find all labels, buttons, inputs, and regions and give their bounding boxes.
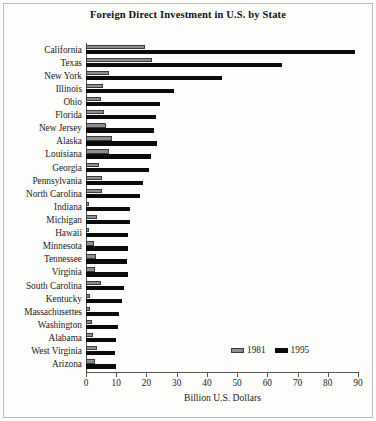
category-label: Louisiana (45, 149, 82, 159)
bar-1995 (86, 168, 149, 172)
bar-1995 (86, 338, 116, 342)
bar-1995 (86, 259, 127, 263)
x-axis-tick-label: 0 (84, 378, 89, 388)
legend-label: 1995 (291, 345, 310, 355)
bar-1995 (86, 233, 128, 237)
x-axis-tick-label: 20 (142, 378, 151, 388)
legend-item: 1981 (231, 345, 266, 355)
category-label: South Carolina (26, 281, 82, 291)
chart-row: Massachusettes (86, 305, 358, 318)
bar-1995 (86, 312, 119, 316)
gray-swatch (231, 348, 244, 353)
x-axis-tick-label: 60 (263, 378, 272, 388)
chart-row: South Carolina (86, 279, 358, 292)
x-axis-tick (116, 372, 117, 377)
bar-1995 (86, 128, 154, 132)
bar-1981 (86, 281, 101, 285)
category-label: Alabama (48, 333, 82, 343)
bar-1981 (86, 215, 97, 219)
bar-1995 (86, 50, 355, 54)
chart-row: New Jersey (86, 122, 358, 135)
chart-row: Georgia (86, 161, 358, 174)
bar-1981 (86, 176, 102, 180)
bar-1995 (86, 299, 122, 303)
bar-1981 (86, 123, 106, 127)
bar-1981 (86, 320, 92, 324)
bar-1995 (86, 207, 130, 211)
chart-row: North Carolina (86, 187, 358, 200)
bar-1981 (86, 254, 96, 258)
x-axis-tick-label: 40 (202, 378, 211, 388)
legend-label: 1981 (247, 345, 266, 355)
bar-1981 (86, 149, 109, 153)
x-axis-tick (177, 372, 178, 377)
chart-row: Alaska (86, 135, 358, 148)
x-axis-tick-label: 80 (323, 378, 332, 388)
bar-1981 (86, 228, 89, 232)
bar-1981 (86, 346, 97, 350)
category-label: New Jersey (39, 123, 82, 133)
plot-area: CaliforniaTexasNew YorkIllinoisOhioFlori… (86, 43, 358, 371)
x-axis-tick-label: 10 (112, 378, 121, 388)
chart-row: West Virginia (86, 345, 358, 358)
bar-1981 (86, 359, 95, 363)
category-label: Tennessee (44, 254, 82, 264)
bar-1995 (86, 76, 222, 80)
category-label: Washington (38, 320, 82, 330)
category-label: Massachusettes (24, 307, 82, 317)
chart-row: Ohio (86, 95, 358, 108)
bar-1995 (86, 272, 128, 276)
bar-1981 (86, 110, 104, 114)
chart-row: Texas (86, 56, 358, 69)
bar-1981 (86, 45, 145, 49)
chart-row: Michigan (86, 213, 358, 226)
bar-1995 (86, 141, 157, 145)
category-label: Texas (60, 58, 82, 68)
chart-row: Kentucky (86, 292, 358, 305)
bar-1981 (86, 163, 99, 167)
bar-1981 (86, 58, 152, 62)
bar-1995 (86, 154, 151, 158)
category-label: New York (44, 71, 82, 81)
x-axis-tick-label: 30 (172, 378, 181, 388)
x-axis-tick (207, 372, 208, 377)
x-axis-tick-label: 70 (293, 378, 302, 388)
category-label: Arizona (52, 359, 82, 369)
chart-row: Alabama (86, 331, 358, 344)
bar-1995 (86, 181, 143, 185)
category-label: Michigan (46, 215, 82, 225)
category-label: Virginia (52, 267, 82, 277)
bar-1981 (86, 189, 102, 193)
bar-1995 (86, 325, 118, 329)
chart-row: New York (86, 69, 358, 82)
chart-title: Foreign Direct Investment in U.S. by Sta… (0, 9, 376, 20)
x-axis-tick (146, 372, 147, 377)
bar-1981 (86, 267, 95, 271)
x-axis-tick (328, 372, 329, 377)
bar-1981 (86, 84, 103, 88)
bar-1995 (86, 89, 174, 93)
x-axis-label: Billion U.S. Dollars (86, 392, 359, 403)
chart-row: Illinois (86, 82, 358, 95)
x-axis-line (86, 372, 359, 373)
x-axis-tick-label: 50 (232, 378, 241, 388)
category-label: Ohio (63, 97, 82, 107)
chart-row: Pennsylvania (86, 174, 358, 187)
bar-1981 (86, 202, 89, 206)
bar-1995 (86, 246, 128, 250)
category-label: Florida (55, 110, 82, 120)
black-swatch (275, 348, 288, 353)
x-axis-tick (267, 372, 268, 377)
chart-row: Florida (86, 109, 358, 122)
category-label: Pennsylvania (32, 176, 82, 186)
x-axis-tick (298, 372, 299, 377)
category-label: West Virginia (31, 346, 82, 356)
category-label: Minnesota (43, 241, 82, 251)
bar-1981 (86, 71, 109, 75)
bar-1981 (86, 97, 101, 101)
bar-1981 (86, 241, 94, 245)
chart-row: Tennessee (86, 253, 358, 266)
bar-1995 (86, 115, 156, 119)
bar-1995 (86, 364, 116, 368)
bar-1995 (86, 102, 160, 106)
